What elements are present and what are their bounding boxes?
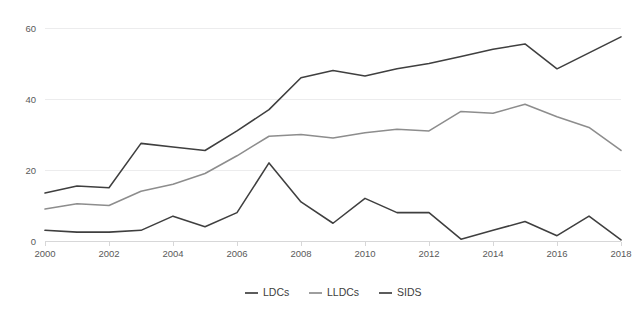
- x-tick-label-2000: 2000: [34, 248, 55, 259]
- y-tick-label-0: 0: [31, 236, 36, 247]
- x-tick-label-2016: 2016: [546, 248, 567, 259]
- x-tick-label-2008: 2008: [290, 248, 311, 259]
- chart-background: [0, 0, 642, 312]
- legend-label-ldcs: LDCs: [263, 286, 289, 298]
- chart-canvas: 0204060 20002002200420062008201020122014…: [0, 0, 642, 312]
- line-chart: 0204060 20002002200420062008201020122014…: [0, 0, 642, 312]
- x-tick-label-2002: 2002: [98, 248, 119, 259]
- y-tick-label-60: 60: [25, 23, 36, 34]
- x-tick-label-2006: 2006: [226, 248, 247, 259]
- x-tick-label-2012: 2012: [418, 248, 439, 259]
- legend-label-lldcs: LLDCs: [327, 286, 359, 298]
- y-tick-label-20: 20: [25, 165, 36, 176]
- legend-label-sids: SIDS: [397, 286, 422, 298]
- y-tick-label-40: 40: [25, 94, 36, 105]
- x-tick-label-2014: 2014: [482, 248, 503, 259]
- x-tick-label-2004: 2004: [162, 248, 183, 259]
- x-tick-label-2010: 2010: [354, 248, 375, 259]
- x-tick-label-2018: 2018: [610, 248, 631, 259]
